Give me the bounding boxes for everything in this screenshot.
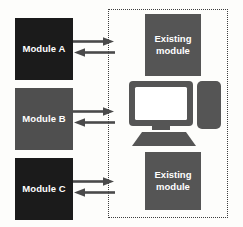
module-c-label: Module C	[22, 184, 66, 195]
existing-module-top[interactable]: Existing module	[145, 14, 201, 76]
computer-tower	[197, 81, 221, 129]
diagram-canvas: Module A Module B Module C Existing modu…	[0, 0, 243, 227]
existing-module-top-line1: Existing	[155, 33, 192, 44]
connection-arrows-module-a	[73, 36, 115, 60]
module-box-b[interactable]: Module B	[15, 88, 73, 150]
module-box-a[interactable]: Module A	[15, 18, 73, 80]
connection-arrows-module-c	[73, 176, 115, 200]
arrow-module-c-to-system	[73, 177, 114, 186]
arrow-module-b-to-system	[73, 107, 114, 116]
module-b-label: Module B	[22, 114, 66, 125]
connection-arrows-module-b	[73, 106, 115, 130]
existing-module-bottom-line1: Existing	[155, 169, 192, 180]
existing-module-bottom-line2: module	[156, 181, 190, 192]
existing-module-top-label: Existing module	[155, 33, 192, 57]
monitor-screen	[135, 87, 187, 120]
arrow-system-to-module-c	[74, 188, 115, 197]
arrow-system-to-module-a	[74, 48, 115, 57]
monitor-stand-neck	[152, 126, 170, 130]
module-box-c[interactable]: Module C	[15, 158, 73, 220]
existing-module-top-line2: module	[156, 45, 190, 56]
arrow-system-to-module-b	[74, 118, 115, 127]
arrow-module-a-to-system	[73, 37, 114, 46]
desktop-computer-icon	[128, 80, 222, 148]
module-a-label: Module A	[22, 44, 65, 55]
existing-module-bottom-label: Existing module	[155, 169, 192, 193]
existing-module-bottom[interactable]: Existing module	[145, 152, 201, 210]
keyboard	[132, 132, 196, 146]
